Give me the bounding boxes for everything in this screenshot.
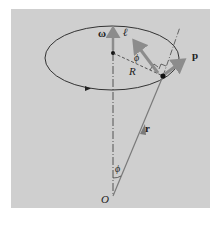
R-label: R [129, 66, 136, 77]
angle-arc-origin [113, 176, 121, 178]
orbit-direction-arrow-icon [85, 86, 91, 91]
ell-label: ℓ⃗ [123, 27, 136, 38]
right-angle-mark-p [159, 64, 166, 69]
phi-top-label: ϕ [134, 53, 139, 63]
r-label: r⃗ [145, 123, 158, 134]
omega-label: ω⃗ [98, 28, 115, 39]
p-label: p⃗ [192, 50, 207, 61]
origin-label: O [101, 194, 109, 205]
phi-bottom-label: ϕ [115, 164, 120, 174]
particle-dot [160, 73, 165, 78]
position-vector-line [113, 76, 163, 196]
